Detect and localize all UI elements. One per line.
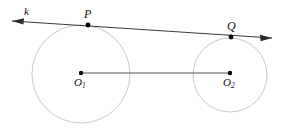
label-point-q: Q bbox=[227, 20, 236, 32]
geometry-figure: k P Q O1 O2 bbox=[0, 0, 282, 131]
point-o1-dot bbox=[79, 71, 83, 75]
label-center-o2-base: O bbox=[223, 76, 231, 88]
label-line-k: k bbox=[24, 6, 29, 17]
point-p-dot bbox=[86, 23, 91, 28]
point-o2-dot bbox=[228, 71, 232, 75]
geometry-canvas bbox=[0, 0, 282, 131]
label-center-o1-subscript: 1 bbox=[82, 81, 86, 90]
point-q-dot bbox=[229, 35, 234, 40]
label-center-o1: O1 bbox=[74, 77, 86, 88]
label-center-o2: O2 bbox=[223, 77, 235, 88]
label-point-p: P bbox=[84, 8, 91, 20]
label-center-o2-subscript: 2 bbox=[231, 81, 235, 90]
label-center-o1-base: O bbox=[74, 76, 82, 88]
arrowhead-right-icon bbox=[260, 35, 272, 41]
arrowhead-left-icon bbox=[12, 18, 24, 24]
